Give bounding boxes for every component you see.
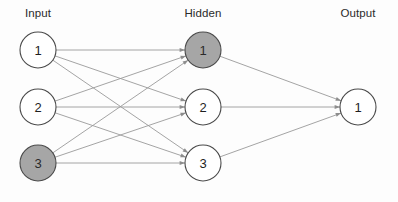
node-input-2[interactable]: 2 <box>20 89 56 125</box>
edge-arrowhead-icon <box>180 97 186 101</box>
edge-arrowhead-icon <box>335 97 341 101</box>
layer-label-output: Output <box>340 7 376 19</box>
edge-arrowhead-icon <box>180 48 185 52</box>
layer-label-input: Input <box>25 7 52 19</box>
node-label: 3 <box>199 156 206 171</box>
layer-label-hidden: Hidden <box>184 7 221 19</box>
edge <box>56 161 185 165</box>
node-hidden-3[interactable]: 3 <box>185 145 221 181</box>
node-label: 1 <box>34 43 41 58</box>
edge-line <box>220 56 341 101</box>
edge-arrowhead-icon <box>180 154 186 158</box>
node-output-1[interactable]: 1 <box>340 89 376 125</box>
edge <box>56 48 185 52</box>
edge-arrowhead-icon <box>180 161 185 165</box>
edge-arrowhead-icon <box>180 105 185 109</box>
edge <box>221 105 340 109</box>
node-label: 1 <box>199 43 206 58</box>
edge-arrowhead-icon <box>335 113 341 117</box>
node-hidden-1[interactable]: 1 <box>185 32 221 68</box>
edge-line <box>220 113 341 157</box>
nodes-group: 1231231 <box>20 32 376 181</box>
edge <box>220 56 341 101</box>
neural-network-canvas: 1231231 InputHiddenOutput <box>0 0 398 202</box>
layer-labels-group: InputHiddenOutput <box>25 7 376 19</box>
node-label: 1 <box>354 100 361 115</box>
node-label: 2 <box>199 100 206 115</box>
edge-arrowhead-icon <box>335 105 340 109</box>
edge-arrowhead-icon <box>180 113 186 117</box>
node-label: 3 <box>34 156 41 171</box>
edge-arrowhead-icon <box>183 148 189 153</box>
node-input-3[interactable]: 3 <box>20 145 56 181</box>
node-label: 2 <box>34 100 41 115</box>
node-hidden-2[interactable]: 2 <box>185 89 221 125</box>
node-input-1[interactable]: 1 <box>20 32 56 68</box>
edge <box>220 113 341 157</box>
edge-arrowhead-icon <box>180 56 186 60</box>
neural-network-diagram: 1231231 InputHiddenOutput <box>0 0 398 202</box>
edge-arrowhead-icon <box>183 60 189 65</box>
